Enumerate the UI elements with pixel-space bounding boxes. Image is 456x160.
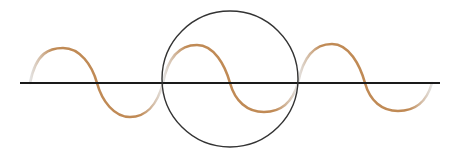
- wave-diagram: [0, 0, 456, 160]
- diagram-svg: [0, 0, 456, 160]
- wave-period-right: [298, 44, 432, 111]
- wave-period-middle: [163, 45, 298, 112]
